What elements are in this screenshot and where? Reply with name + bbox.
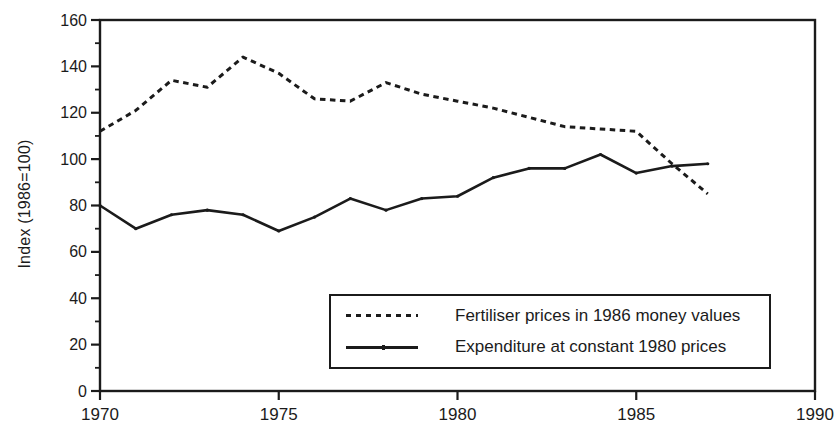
y-tick-label: 120	[60, 104, 87, 121]
legend-item-label: Expenditure at constant 1980 prices	[455, 337, 726, 357]
series-line-0	[100, 57, 708, 194]
legend-box: Fertiliser prices in 1986 money values E…	[329, 294, 771, 369]
y-tick-label: 140	[60, 58, 87, 75]
legend-dashed-line-sample	[346, 314, 418, 317]
legend-point-marker	[382, 345, 385, 350]
x-tick-label: 1985	[617, 405, 655, 424]
y-tick-label: 160	[60, 12, 87, 29]
y-tick-label: 40	[69, 290, 87, 307]
data-point-marker	[349, 197, 352, 200]
data-point-marker	[384, 209, 387, 212]
data-point-marker	[599, 153, 602, 156]
y-tick-label: 60	[69, 243, 87, 260]
plot-area: 0204060801001201401601970197519801985199…	[0, 0, 836, 447]
data-point-marker	[563, 167, 566, 170]
y-axis-title: Index (1986=100)	[16, 139, 34, 268]
line-chart-figure: 0204060801001201401601970197519801985199…	[0, 0, 836, 447]
x-axis: 19701975198019851990	[81, 391, 834, 424]
data-point-marker	[313, 215, 316, 218]
data-point-marker	[420, 197, 423, 200]
y-tick-label: 80	[69, 197, 87, 214]
data-point-marker	[456, 195, 459, 198]
data-point-marker	[134, 227, 137, 230]
data-point-marker	[635, 171, 638, 174]
data-point-marker	[706, 162, 709, 165]
legend-item-label: Fertiliser prices in 1986 money values	[455, 306, 740, 326]
x-tick-label: 1970	[81, 405, 119, 424]
data-point-marker	[277, 229, 280, 232]
x-tick-label: 1980	[439, 405, 477, 424]
data-point-marker	[241, 213, 244, 216]
data-point-marker	[670, 164, 673, 167]
y-tick-label: 20	[69, 336, 87, 353]
x-tick-label: 1990	[796, 405, 834, 424]
legend-item-expenditure: Expenditure at constant 1980 prices	[346, 335, 769, 359]
y-tick-label: 100	[60, 151, 87, 168]
data-point-marker	[206, 209, 209, 212]
data-point-marker	[98, 204, 101, 207]
data-point-marker	[492, 176, 495, 179]
data-point-marker	[527, 167, 530, 170]
x-tick-label: 1975	[260, 405, 298, 424]
legend-solid-line-sample	[346, 346, 418, 349]
legend-item-fertiliser-prices: Fertiliser prices in 1986 money values	[346, 304, 769, 328]
y-tick-label: 0	[78, 383, 87, 400]
y-axis: 020406080100120140160	[60, 12, 100, 400]
series-line-1	[100, 154, 708, 231]
data-point-marker	[170, 213, 173, 216]
